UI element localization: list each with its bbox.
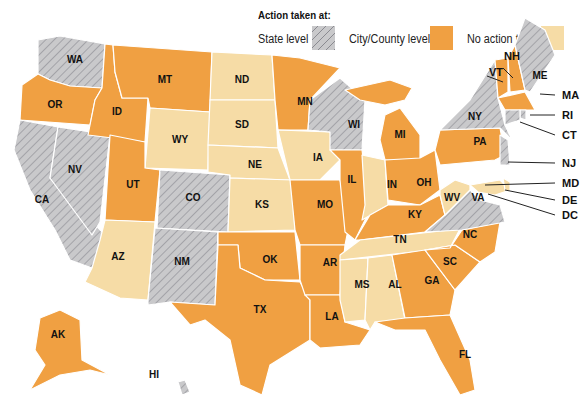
state-label-ms: MS bbox=[355, 279, 370, 290]
state-label-ga: GA bbox=[425, 275, 440, 286]
state-label-mi: MI bbox=[394, 129, 405, 140]
state-label-in: IN bbox=[387, 179, 397, 190]
state-label-sd: SD bbox=[235, 119, 249, 130]
callout-label-dc: DC bbox=[562, 209, 578, 221]
state-label-la: LA bbox=[325, 311, 338, 322]
state-label-fl: FL bbox=[459, 349, 471, 360]
callout-label-ri: RI bbox=[562, 109, 573, 121]
state-label-ut: UT bbox=[126, 179, 139, 190]
state-label-il: IL bbox=[348, 174, 357, 185]
state-ct bbox=[505, 110, 520, 125]
leader-line-ct bbox=[520, 122, 555, 135]
state-label-ok: OK bbox=[263, 254, 279, 265]
state-label-al: AL bbox=[388, 279, 401, 290]
state-vt bbox=[495, 58, 508, 98]
callout-label-vt: VT bbox=[489, 66, 503, 78]
state-label-ne: NE bbox=[248, 159, 262, 170]
state-label-nc: NC bbox=[463, 229, 477, 240]
state-label-ks: KS bbox=[255, 199, 269, 210]
state-label-wa: WA bbox=[67, 54, 83, 65]
state-label-va: VA bbox=[471, 192, 484, 203]
state-label-co: CO bbox=[186, 192, 201, 203]
leader-line-nj bbox=[508, 162, 555, 163]
state-label-wv: WV bbox=[444, 192, 460, 203]
state-label-id: ID bbox=[112, 106, 122, 117]
state-label-az: AZ bbox=[111, 251, 124, 262]
state-label-nm: NM bbox=[174, 256, 190, 267]
state-label-nv: NV bbox=[68, 164, 82, 175]
state-label-tn: TN bbox=[393, 234, 406, 245]
state-label-mn: MN bbox=[297, 96, 313, 107]
state-label-ca: CA bbox=[35, 194, 49, 205]
state-label-ny: NY bbox=[468, 111, 482, 122]
callout-label-nj: NJ bbox=[562, 157, 576, 169]
callout-label-nh: NH bbox=[504, 50, 520, 62]
state-label-mo: MO bbox=[317, 199, 333, 210]
state-label-ky: KY bbox=[408, 209, 422, 220]
callout-label-ma: MA bbox=[562, 89, 579, 101]
us-map: WAORCANVIDMTWYUTAZCONMNDSDNEKSOKTXMNIAMO… bbox=[0, 0, 584, 408]
state-label-ar: AR bbox=[323, 257, 338, 268]
state-ms bbox=[340, 258, 368, 322]
state-label-ia: IA bbox=[313, 152, 323, 163]
callout-label-md: MD bbox=[562, 177, 579, 189]
state-nj bbox=[500, 135, 510, 165]
state-label-ak: AK bbox=[51, 329, 66, 340]
state-label-mt: MT bbox=[158, 74, 172, 85]
state-label-pa: PA bbox=[473, 136, 486, 147]
state-label-wi: WI bbox=[348, 119, 360, 130]
state-label-or: OR bbox=[48, 99, 64, 110]
state-label-oh: OH bbox=[417, 177, 432, 188]
state-label-tx: TX bbox=[254, 304, 267, 315]
state-label-wy: WY bbox=[172, 134, 188, 145]
state-label-sc: SC bbox=[443, 256, 457, 267]
state-hi bbox=[178, 380, 190, 395]
state-pa bbox=[435, 128, 505, 165]
callout-label-me: ME bbox=[533, 70, 548, 81]
state-label-hi: HI bbox=[149, 369, 159, 380]
state-ak bbox=[30, 310, 110, 390]
leader-line-de bbox=[505, 190, 555, 200]
state-label-nd: ND bbox=[235, 74, 249, 85]
leader-line-ma bbox=[540, 94, 555, 95]
state-ri bbox=[520, 110, 526, 120]
callout-label-de: DE bbox=[562, 194, 577, 206]
state-ar bbox=[300, 245, 345, 295]
callout-label-ct: CT bbox=[562, 129, 577, 141]
